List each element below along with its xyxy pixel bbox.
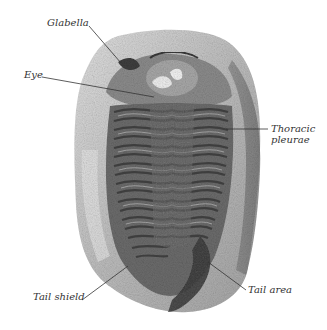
axial-lobe [150,105,194,248]
label-thoracic-pleurae: Thoracic pleurae [271,123,321,145]
trilobite-fossil-illustration [0,0,327,330]
label-thoracic-pleurae-line1: Thoracic [271,123,315,134]
label-eye: Eye [24,69,43,80]
trilobite-figure: Glabella Eye Thoracic pleurae Tail shiel… [0,0,327,330]
label-glabella: Glabella [47,17,89,28]
label-tail-shield: Tail shield [33,291,85,302]
label-tail-area: Tail area [248,284,292,295]
label-thoracic-pleurae-line2: pleurae [271,134,310,145]
